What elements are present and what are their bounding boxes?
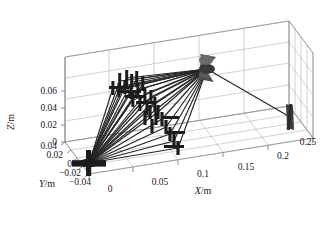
apex-vertex-marker <box>198 54 216 82</box>
x-tick-label: 0.05 <box>152 177 169 187</box>
z-axis-title-unit: /m <box>5 114 16 125</box>
svg-text:X/m: X/m <box>194 185 212 196</box>
z-axis-tick-labels: 0.06 0.04 0.02 0 <box>40 86 57 147</box>
svg-text:Y/m: Y/m <box>39 178 55 189</box>
y-tick-label: −0.04 <box>69 177 91 187</box>
x-tick-label: 0.15 <box>238 162 255 172</box>
x-axis-title: X/m <box>194 185 212 196</box>
figure-3d-plot: 0.06 0.04 0.02 0 Z/m 0.04 0.02 0 −0.02 −… <box>0 0 325 226</box>
y-axis-title-unit: /m <box>45 178 56 189</box>
svg-text:Z/m: Z/m <box>5 114 16 130</box>
x-tick-label: 0.1 <box>197 169 209 179</box>
z-axis-title: Z/m <box>5 114 16 130</box>
z-tick-label: 0.02 <box>40 120 57 130</box>
plot-canvas: 0.06 0.04 0.02 0 Z/m 0.04 0.02 0 −0.02 −… <box>0 0 325 226</box>
x-axis-title-unit: /m <box>201 185 212 196</box>
z-tick-label: 0.04 <box>40 103 57 113</box>
y-tick-label: 0.02 <box>46 150 63 160</box>
y-axis-title: Y/m <box>39 178 55 189</box>
x-tick-label: 0.25 <box>300 137 317 147</box>
x-tick-label: 0.2 <box>277 151 289 161</box>
x-tick-label: 0 <box>108 184 113 194</box>
isolated-marker <box>286 104 294 130</box>
z-tick-label: 0.06 <box>40 86 57 96</box>
